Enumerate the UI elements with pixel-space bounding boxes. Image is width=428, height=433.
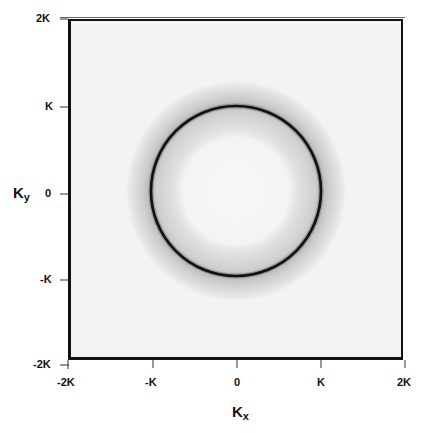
x-tick-label: -2K bbox=[57, 377, 75, 388]
y-tick-label: -K bbox=[40, 274, 52, 285]
x-tick-label: 2K bbox=[397, 377, 411, 388]
y-tick-label: 2K bbox=[36, 13, 50, 24]
y-axis-title: Ky bbox=[13, 185, 30, 203]
ring-plot bbox=[0, 0, 428, 433]
y-tick-label: K bbox=[45, 101, 53, 112]
x-axis-title: Kx bbox=[232, 404, 249, 422]
y-tick-label: 0 bbox=[45, 188, 51, 199]
x-tick-label: K bbox=[317, 377, 325, 388]
x-tick-label: 0 bbox=[234, 377, 240, 388]
halo-annulus bbox=[126, 81, 346, 301]
y-tick-label: -2K bbox=[33, 359, 51, 370]
x-tick-label: -K bbox=[145, 377, 157, 388]
